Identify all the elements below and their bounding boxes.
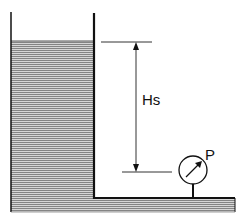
head-dimension [101,42,172,172]
diagram-canvas: Hs P [0,0,247,224]
arrow-down-icon [133,164,139,172]
pressure-gauge-icon [179,156,207,198]
liquid-fill [11,41,235,212]
arrow-up-icon [133,42,139,50]
pressure-label: P [205,146,215,163]
head-label: Hs [142,91,160,108]
